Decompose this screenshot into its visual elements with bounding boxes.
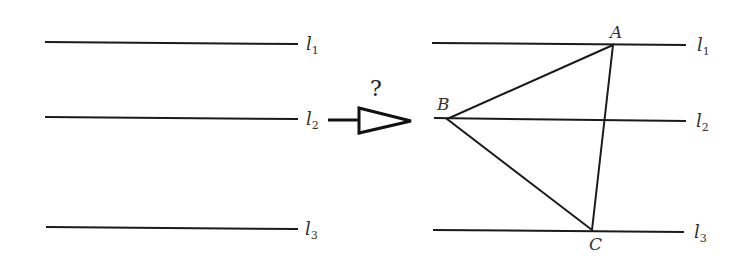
left-panel: l1 l2 l3 bbox=[45, 33, 319, 242]
vertex-label-b: B bbox=[436, 94, 450, 114]
right-label-l1: l1 bbox=[697, 34, 710, 58]
left-label-l1: l1 bbox=[306, 33, 319, 57]
question-mark: ? bbox=[370, 76, 382, 101]
right-line-l1 bbox=[432, 43, 686, 45]
left-line-l1 bbox=[45, 42, 298, 44]
right-line-l2 bbox=[434, 118, 686, 121]
left-line-l2 bbox=[45, 117, 298, 119]
transform-arrow: ? bbox=[328, 76, 411, 133]
right-label-l2: l2 bbox=[696, 110, 709, 134]
arrow-head-icon bbox=[359, 108, 411, 133]
right-panel: l1 l2 l3 A B C bbox=[432, 22, 710, 254]
left-label-l3: l3 bbox=[305, 218, 318, 242]
left-line-l3 bbox=[46, 227, 298, 229]
right-label-l3: l3 bbox=[694, 221, 707, 245]
vertex-label-c: C bbox=[589, 234, 602, 254]
triangle-abc bbox=[447, 45, 613, 230]
diagram-canvas: l1 l2 l3 ? l1 l2 l3 A B C bbox=[0, 0, 747, 268]
left-label-l2: l2 bbox=[306, 108, 319, 132]
right-line-l3 bbox=[433, 230, 684, 232]
vertex-label-a: A bbox=[608, 22, 622, 42]
